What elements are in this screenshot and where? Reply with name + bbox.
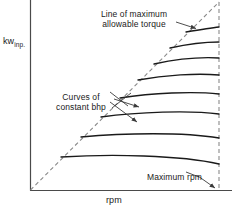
constant-bhp-curve-7 <box>81 134 219 138</box>
y-axis-label-subscript: inp. <box>14 41 25 48</box>
constant-bhp-curve-2 <box>170 42 219 48</box>
y-axis-label-main: kw <box>3 36 14 46</box>
leader-arrows <box>110 22 215 188</box>
x-axis-label: rpm <box>106 195 122 205</box>
constant-bhp-curve-3 <box>154 58 219 64</box>
annotation-maximum-rpm: Maximum rpm <box>147 172 202 182</box>
constant-bhp-curve-4 <box>138 74 219 80</box>
engine-performance-diagram: Line of maximum allowable torque Curves … <box>0 0 238 210</box>
constant-bhp-curve-8 <box>61 155 219 164</box>
annotation-curves-of-constant-bhp: Curves of constant bhp <box>46 92 116 112</box>
annotation-line-of-maximum-allowable-torque: Line of maximum allowable torque <box>88 9 180 29</box>
constant-bhp-curve-6 <box>101 112 219 117</box>
diagram-canvas <box>0 0 238 210</box>
y-axis-label: kwinp. <box>3 36 25 50</box>
constant-bhp-curve-5 <box>120 93 219 98</box>
